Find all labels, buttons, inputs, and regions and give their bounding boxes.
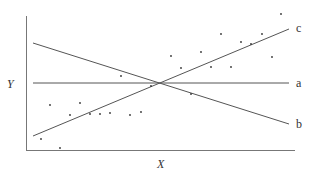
data-point — [280, 13, 282, 15]
data-point — [190, 93, 192, 95]
fit-lines: abc — [33, 21, 302, 136]
line-label-c: c — [296, 21, 301, 35]
data-point — [250, 43, 252, 45]
data-point — [240, 41, 242, 43]
data-point — [230, 66, 232, 68]
y-axis-label: Y — [7, 77, 15, 91]
data-point — [79, 102, 81, 104]
data-point — [120, 75, 122, 77]
data-point — [220, 33, 222, 35]
data-point — [200, 51, 202, 53]
data-point — [180, 67, 182, 69]
data-point — [89, 113, 91, 115]
data-point — [40, 138, 42, 140]
data-point — [129, 114, 131, 116]
regression-diagram: abc Y X — [0, 0, 309, 176]
data-point — [59, 147, 61, 149]
data-point — [49, 104, 51, 106]
data-point — [261, 33, 263, 35]
data-point — [210, 66, 212, 68]
data-point — [170, 55, 172, 57]
data-point — [99, 113, 101, 115]
data-point — [69, 114, 71, 116]
line-label-a: a — [296, 76, 302, 90]
data-point — [109, 112, 111, 114]
data-point — [271, 56, 273, 58]
data-point — [150, 85, 152, 87]
x-axis-label: X — [156, 157, 165, 171]
data-points — [40, 13, 282, 149]
data-point — [140, 111, 142, 113]
line-label-b: b — [296, 117, 302, 131]
